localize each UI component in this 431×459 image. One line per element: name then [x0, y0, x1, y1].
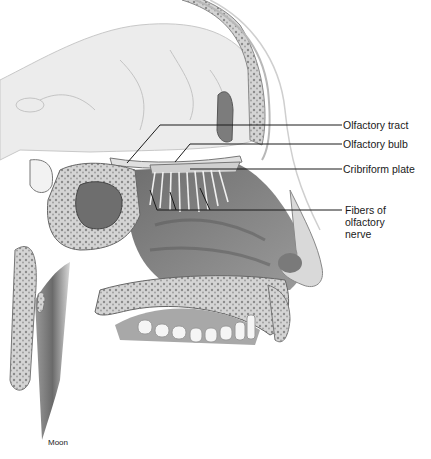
label-cribriform-plate: Cribriform plate: [343, 163, 415, 175]
spine: [10, 247, 70, 440]
fibers-line-2: olfactory: [345, 216, 386, 228]
fibers-line-1: Fibers of: [345, 204, 386, 216]
label-olfactory-bulb: Olfactory bulb: [343, 138, 408, 150]
illustrator-credit: Moon: [48, 438, 68, 447]
label-fibers-of-olfactory-nerve: Fibers of olfactory nerve: [345, 204, 386, 240]
label-olfactory-tract: Olfactory tract: [343, 119, 408, 131]
brain-region: [0, 24, 255, 160]
sphenoid-bone: [30, 160, 140, 250]
fibers-line-3: nerve: [345, 228, 386, 240]
nasal-cavity: [128, 165, 306, 290]
anatomy-figure: Olfactory tract Olfactory bulb Cribrifor…: [0, 0, 431, 459]
